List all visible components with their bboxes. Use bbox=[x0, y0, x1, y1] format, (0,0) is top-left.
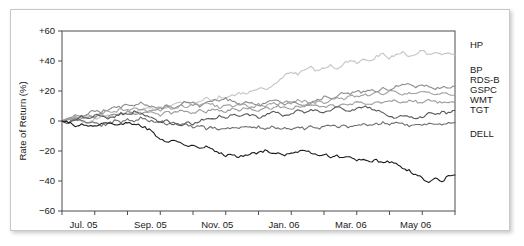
x-axis-tick-label: Nov. 05 bbox=[201, 219, 233, 230]
y-axis-tick-label: 0 bbox=[50, 115, 55, 126]
y-axis-tick-label: +20 bbox=[39, 85, 55, 96]
y-axis-tick-label: +60 bbox=[39, 25, 55, 36]
legend-label-hp: HP bbox=[470, 39, 483, 50]
plot-area-frame bbox=[62, 31, 455, 211]
x-axis-tick-label: Mar. 06 bbox=[335, 219, 367, 230]
x-axis-tick-label: Sep. 05 bbox=[134, 219, 167, 230]
y-axis-tick-label: −20 bbox=[39, 145, 55, 156]
y-axis-tick-label: +40 bbox=[39, 55, 55, 66]
x-axis-tick-label: Jan. 06 bbox=[268, 219, 299, 230]
y-axis-title: Rate of Return (%) bbox=[17, 81, 28, 160]
x-axis-tick-label: May 06 bbox=[400, 219, 431, 230]
y-axis-tick-label: −40 bbox=[39, 175, 55, 186]
rate-of-return-line-chart: +60+40+200−20−40−60Jul. 05Sep. 05Nov. 05… bbox=[0, 0, 524, 246]
legend-label-dell: DELL bbox=[470, 128, 494, 139]
chart-root: +60+40+200−20−40−60Jul. 05Sep. 05Nov. 05… bbox=[0, 0, 524, 246]
x-axis-tick-label: Jul. 05 bbox=[70, 219, 98, 230]
y-axis-tick-label: −60 bbox=[39, 205, 55, 216]
legend-label-tgt: TGT bbox=[470, 104, 489, 115]
